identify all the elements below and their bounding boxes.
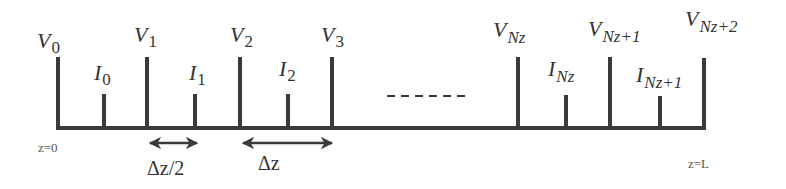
label-vnz: VNz xyxy=(493,17,526,47)
label-v3: V3 xyxy=(321,22,344,51)
label-v1: V1 xyxy=(134,22,157,51)
label-vnz2: VNz+2 xyxy=(685,6,738,36)
label-vnz1: VNz+1 xyxy=(588,16,640,46)
label-v0: V0 xyxy=(37,28,60,57)
label-full-step: Δz xyxy=(258,152,280,174)
label-i1: I1 xyxy=(188,60,206,89)
label-z-start: z=0 xyxy=(38,140,58,155)
label-inz1: INz+1 xyxy=(635,62,682,92)
current-ticks xyxy=(104,94,660,129)
label-i0: I0 xyxy=(93,60,111,89)
label-z-end: z=L xyxy=(688,156,709,171)
label-inz: INz xyxy=(547,56,575,86)
fdtd-grid-diagram: V0 V1 V2 V3 VNz VNz+1 VNz+2 I0 I1 I2 INz… xyxy=(0,0,786,189)
voltage-ticks xyxy=(58,57,704,130)
label-v2: V2 xyxy=(230,22,253,51)
label-i2: I2 xyxy=(278,56,296,85)
label-half-step: Δz/2 xyxy=(147,157,184,179)
